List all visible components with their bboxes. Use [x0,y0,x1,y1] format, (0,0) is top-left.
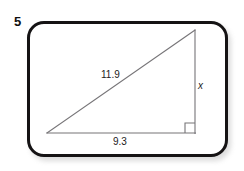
hypotenuse-length-label: 11.9 [101,70,120,80]
right-angle-marker [185,123,195,133]
height-variable-label: x [198,81,203,91]
triangle-hypotenuse-line [47,30,195,133]
figure-stage: 5 11.9 9.3 x [0,0,244,171]
base-length-label: 9.3 [113,137,127,147]
